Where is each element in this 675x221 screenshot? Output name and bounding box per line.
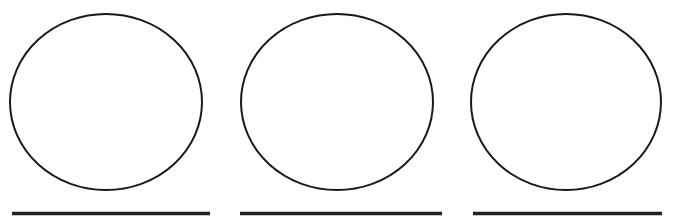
figure-group-1: [10, 14, 210, 214]
figures-svg: [0, 0, 675, 221]
figure-canvas: [0, 0, 675, 221]
circle-3[interactable]: [471, 14, 661, 190]
circle-2[interactable]: [241, 14, 433, 190]
figure-group-2: [240, 14, 442, 214]
circle-1[interactable]: [10, 14, 202, 190]
figure-group-3: [471, 14, 662, 214]
